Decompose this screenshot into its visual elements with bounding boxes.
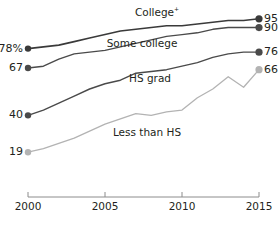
line-chart: 78%95679040761966College+Some collegeHS … — [0, 0, 278, 226]
start-marker-hs-grad — [25, 112, 31, 118]
x-axis-tick-label-2005: 2005 — [92, 201, 119, 212]
start-value-label-some-college: 67 — [9, 62, 23, 73]
x-axis-tick-label-2000: 2000 — [15, 201, 42, 212]
inline-series-label-text: HS grad — [129, 72, 171, 84]
x-axis — [28, 192, 259, 197]
x-axis-tick-label-2010: 2010 — [169, 201, 196, 212]
inline-series-label-college: College+ — [135, 6, 179, 17]
x-axis-line — [28, 192, 259, 197]
start-value-label-hs-grad: 40 — [9, 109, 23, 120]
x-axis-ticks — [105, 192, 182, 197]
end-marker-hs-grad — [255, 49, 262, 56]
inline-series-label-text: Less than HS — [113, 126, 181, 138]
inline-series-label-text: Some college — [107, 37, 178, 49]
end-value-label-hs-grad: 76 — [264, 46, 278, 57]
start-marker-college — [25, 45, 31, 51]
chart-plot-area — [0, 0, 278, 226]
inline-series-label-text: College — [135, 6, 174, 18]
start-value-label-college: 78% — [0, 43, 23, 54]
footnote-marker: + — [174, 5, 179, 12]
end-marker-college — [255, 15, 262, 22]
end-marker-some-college — [255, 24, 262, 31]
end-value-label-less-than-hs: 66 — [264, 64, 278, 75]
start-marker-less-than-hs — [25, 149, 31, 155]
inline-series-label-some-college: Some college — [107, 38, 178, 49]
inline-series-label-less-than-hs: Less than HS — [113, 127, 181, 138]
end-value-label-some-college: 90 — [264, 22, 278, 33]
start-marker-some-college — [25, 65, 31, 71]
end-marker-less-than-hs — [255, 66, 262, 73]
start-value-label-less-than-hs: 19 — [9, 146, 23, 157]
x-axis-tick-label-2015: 2015 — [246, 201, 273, 212]
inline-series-label-hs-grad: HS grad — [129, 73, 171, 84]
